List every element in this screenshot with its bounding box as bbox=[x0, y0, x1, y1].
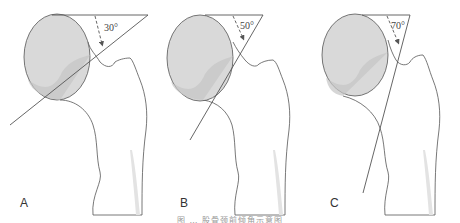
figure-caption: 图 … 股骨颈前倾角示意图 bbox=[0, 214, 460, 223]
panel-a bbox=[10, 14, 148, 215]
panel-b bbox=[167, 15, 290, 215]
panel-label-b: B bbox=[180, 196, 188, 210]
angle-arrow-a bbox=[95, 16, 102, 44]
femur-diagram bbox=[0, 0, 460, 223]
angle-label-a: 30° bbox=[104, 22, 118, 33]
panel-label-a: A bbox=[20, 196, 28, 210]
angle-label-b: 50° bbox=[240, 20, 254, 31]
panel-c bbox=[322, 14, 440, 215]
panel-label-c: C bbox=[330, 196, 339, 210]
angle-label-c: 70° bbox=[391, 20, 405, 31]
